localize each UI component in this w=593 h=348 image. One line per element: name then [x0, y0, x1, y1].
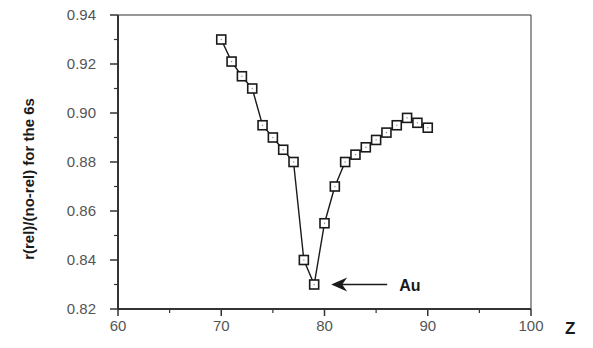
- annotation-au: Au: [331, 277, 420, 294]
- marker-dot: [407, 117, 408, 118]
- x-tick-label: 70: [213, 317, 230, 334]
- y-tick-label: 0.82: [67, 300, 96, 317]
- marker-dot: [283, 149, 284, 150]
- y-tick-label: 0.90: [67, 104, 96, 121]
- x-tick-label: 90: [419, 317, 436, 334]
- y-tick-label: 0.86: [67, 202, 96, 219]
- y-tick-label: 0.94: [67, 6, 96, 23]
- y-tick-label: 0.84: [67, 251, 96, 268]
- annotation-label: Au: [399, 277, 420, 294]
- marker-dot: [262, 125, 263, 126]
- y-tick-label: 0.88: [67, 153, 96, 170]
- marker-dot: [365, 147, 366, 148]
- plot-frame: [118, 15, 531, 310]
- marker-dot: [396, 125, 397, 126]
- marker-dot: [376, 139, 377, 140]
- marker-dot: [427, 127, 428, 128]
- marker-dot: [231, 61, 232, 62]
- x-axis: 60708090100: [110, 309, 544, 334]
- marker-dot: [345, 161, 346, 162]
- x-axis-title: Z: [565, 319, 575, 338]
- series-line: [221, 40, 428, 285]
- y-axis: 0.820.840.860.880.900.920.94: [67, 6, 118, 317]
- marker-dot: [303, 259, 304, 260]
- marker-dot: [386, 132, 387, 133]
- x-tick-label: 80: [316, 317, 333, 334]
- marker-dot: [221, 39, 222, 40]
- x-tick-label: 100: [518, 317, 543, 334]
- marker-dot: [355, 154, 356, 155]
- chart: 0.820.840.860.880.900.920.94 60708090100…: [0, 0, 593, 348]
- y-axis-title: r(rel)/(no-rel) for the 6s: [20, 98, 37, 260]
- marker-dot: [241, 76, 242, 77]
- marker-dot: [314, 284, 315, 285]
- marker-dot: [252, 88, 253, 89]
- marker-dot: [324, 223, 325, 224]
- marker-dot: [334, 186, 335, 187]
- x-tick-label: 60: [110, 317, 127, 334]
- marker-dot: [293, 161, 294, 162]
- data-series: [217, 35, 433, 289]
- marker-dot: [417, 122, 418, 123]
- marker-dot: [272, 137, 273, 138]
- y-tick-label: 0.92: [67, 55, 96, 72]
